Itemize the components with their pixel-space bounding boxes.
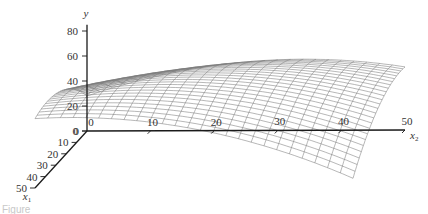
axes [30, 25, 405, 188]
x1-tick-label: 40 [26, 171, 38, 183]
x2-tick-label: 20 [211, 116, 223, 128]
x2-tick-label: 10 [147, 116, 159, 128]
x2-tick-label: 30 [274, 115, 286, 127]
mesh-line-x2 [353, 67, 405, 178]
mesh-line-x1 [77, 64, 395, 90]
y-tick-label: 80 [67, 25, 79, 37]
mesh-line-x2 [328, 64, 380, 168]
mesh-line-x2 [200, 61, 252, 130]
x1-tick-label: 20 [47, 148, 59, 160]
x2-tick-label: 0 [88, 116, 94, 128]
mesh-line-x2 [264, 59, 316, 146]
x2-axis-label: x2 [409, 129, 419, 143]
mesh-line-x2 [315, 62, 367, 163]
y-tick-label: 20 [67, 100, 79, 112]
axis-labels: 0204060800102030405001020304050yx2x1 [16, 7, 419, 204]
x1-tick-label: 30 [37, 159, 49, 171]
x2-axis [87, 130, 405, 131]
x1-axis-label: x1 [22, 190, 32, 204]
x2-tick-label: 40 [338, 115, 350, 127]
y-tick-label: 60 [67, 50, 79, 62]
surface-plot: 0204060800102030405001020304050yx2x1 [0, 0, 428, 214]
figure-caption: Figure [2, 204, 30, 214]
x1-axis-subscript: 1 [28, 196, 32, 204]
y-axis-label: y [83, 7, 89, 19]
x2-tick-label: 50 [402, 115, 414, 127]
x1-tick-label: 10 [58, 136, 70, 148]
x2-axis-subscript: 2 [415, 135, 419, 143]
mesh-line-x1 [41, 106, 359, 158]
x1-tick-label: 0 [74, 125, 80, 137]
y-tick-label: 40 [67, 75, 79, 87]
